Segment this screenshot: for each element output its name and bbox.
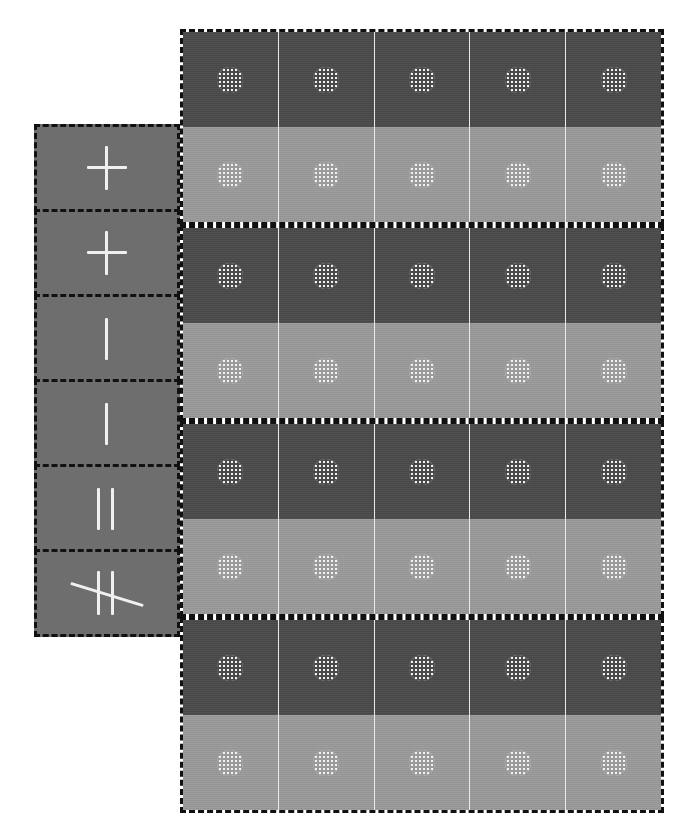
mesh-circle-icon[interactable] — [313, 655, 339, 681]
mesh-circle-icon[interactable] — [313, 459, 339, 485]
grid-cell[interactable] — [566, 323, 661, 418]
mesh-circle-icon[interactable] — [217, 358, 243, 384]
mesh-circle-icon[interactable] — [505, 750, 531, 776]
grid-cell[interactable] — [183, 715, 279, 810]
mesh-pattern — [409, 459, 435, 485]
grid-cell[interactable] — [183, 519, 279, 614]
grid-cell[interactable] — [279, 127, 375, 222]
label-cell[interactable] — [34, 209, 180, 297]
mesh-circle-icon[interactable] — [409, 263, 435, 289]
mesh-circle-icon[interactable] — [217, 67, 243, 93]
grid-cell[interactable] — [470, 127, 566, 222]
grid-row — [183, 424, 661, 519]
mesh-circle-icon[interactable] — [601, 358, 627, 384]
mesh-pattern — [601, 459, 627, 485]
grid-cell[interactable] — [279, 715, 375, 810]
mesh-circle-icon[interactable] — [505, 358, 531, 384]
glyph-stroke — [97, 488, 100, 530]
mesh-circle-icon[interactable] — [505, 162, 531, 188]
grid-cell[interactable] — [183, 228, 279, 323]
grid-cell[interactable] — [279, 519, 375, 614]
mesh-circle-icon[interactable] — [217, 459, 243, 485]
mesh-circle-icon[interactable] — [313, 750, 339, 776]
grid-group — [180, 421, 664, 617]
mesh-circle-icon[interactable] — [409, 554, 435, 580]
mesh-circle-icon[interactable] — [409, 67, 435, 93]
mesh-pattern — [601, 67, 627, 93]
grid-cell[interactable] — [183, 323, 279, 418]
grid-cell[interactable] — [470, 620, 566, 715]
plus-icon — [75, 138, 139, 198]
mesh-circle-icon[interactable] — [409, 459, 435, 485]
mesh-circle-icon[interactable] — [505, 263, 531, 289]
grid-cell[interactable] — [279, 32, 375, 127]
mesh-circle-icon[interactable] — [217, 554, 243, 580]
grid-cell[interactable] — [566, 620, 661, 715]
grid-cell[interactable] — [375, 715, 471, 810]
grid-cell[interactable] — [470, 715, 566, 810]
mesh-circle-icon[interactable] — [601, 67, 627, 93]
grid-cell[interactable] — [183, 424, 279, 519]
grid-cell[interactable] — [279, 228, 375, 323]
grid-cell[interactable] — [375, 228, 471, 323]
mesh-circle-icon[interactable] — [505, 655, 531, 681]
label-cell[interactable] — [34, 124, 180, 212]
grid-cell[interactable] — [279, 620, 375, 715]
glyph-stroke — [70, 582, 144, 607]
mesh-circle-icon[interactable] — [601, 263, 627, 289]
mesh-circle-icon[interactable] — [601, 554, 627, 580]
label-cell[interactable] — [34, 549, 180, 637]
mesh-circle-icon[interactable] — [217, 655, 243, 681]
mesh-circle-icon[interactable] — [217, 263, 243, 289]
label-cell[interactable] — [34, 294, 180, 382]
grid-row — [183, 228, 661, 323]
mesh-circle-icon[interactable] — [601, 162, 627, 188]
grid-cell[interactable] — [183, 127, 279, 222]
grid-cell[interactable] — [566, 32, 661, 127]
grid-cell[interactable] — [566, 228, 661, 323]
mesh-pattern — [217, 162, 243, 188]
mesh-circle-icon[interactable] — [313, 67, 339, 93]
grid-cell[interactable] — [566, 424, 661, 519]
grid-cell[interactable] — [279, 424, 375, 519]
grid-cell[interactable] — [470, 32, 566, 127]
mesh-circle-icon[interactable] — [409, 655, 435, 681]
label-cell[interactable] — [34, 379, 180, 467]
grid-cell[interactable] — [470, 228, 566, 323]
grid-cell[interactable] — [375, 127, 471, 222]
mesh-circle-icon[interactable] — [313, 263, 339, 289]
mesh-circle-icon[interactable] — [601, 750, 627, 776]
grid-cell[interactable] — [566, 519, 661, 614]
mesh-circle-icon[interactable] — [505, 459, 531, 485]
grid-row — [183, 323, 661, 418]
mesh-circle-icon[interactable] — [409, 358, 435, 384]
mesh-circle-icon[interactable] — [601, 459, 627, 485]
grid-cell[interactable] — [470, 424, 566, 519]
mesh-circle-icon[interactable] — [313, 358, 339, 384]
mesh-circle-icon[interactable] — [217, 162, 243, 188]
grid-cell[interactable] — [566, 127, 661, 222]
label-cell[interactable] — [34, 464, 180, 552]
grid-cell[interactable] — [375, 424, 471, 519]
mesh-circle-icon[interactable] — [313, 554, 339, 580]
grid-cell[interactable] — [279, 323, 375, 418]
grid-cell[interactable] — [375, 620, 471, 715]
mesh-circle-icon[interactable] — [601, 655, 627, 681]
grid-cell[interactable] — [566, 715, 661, 810]
mesh-pattern — [409, 358, 435, 384]
grid-cell[interactable] — [183, 32, 279, 127]
mesh-pattern — [601, 655, 627, 681]
mesh-circle-icon[interactable] — [409, 162, 435, 188]
grid-cell[interactable] — [375, 32, 471, 127]
mesh-circle-icon[interactable] — [217, 750, 243, 776]
mesh-circle-icon[interactable] — [313, 162, 339, 188]
mesh-circle-icon[interactable] — [505, 67, 531, 93]
mesh-circle-icon[interactable] — [409, 750, 435, 776]
mesh-circle-icon[interactable] — [505, 554, 531, 580]
grid-cell[interactable] — [183, 620, 279, 715]
grid-cell[interactable] — [375, 519, 471, 614]
grid-cell[interactable] — [375, 323, 471, 418]
grid-cell[interactable] — [470, 519, 566, 614]
grid-cell[interactable] — [470, 323, 566, 418]
mesh-pattern — [313, 162, 339, 188]
